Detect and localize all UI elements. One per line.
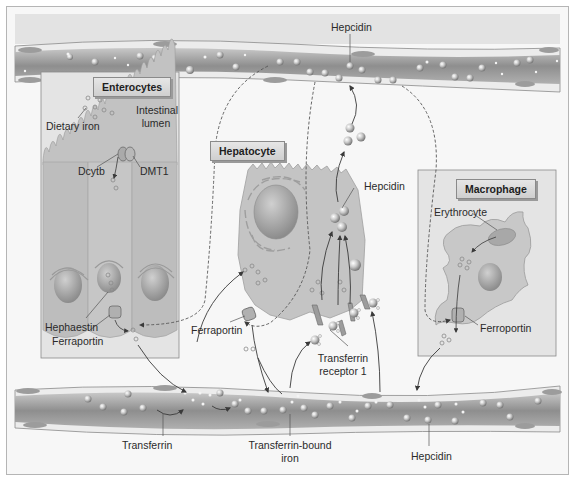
macrophage-tag: Macrophage (456, 179, 536, 199)
label-hepcidin-top: Hepcidin (331, 21, 372, 33)
label-dietary-iron: Dietary iron (46, 120, 100, 132)
label-dcytb: Dcytb (78, 165, 105, 177)
label-transferrin-receptor-line2: receptor 1 (313, 365, 373, 377)
label-intestinal-lumen-line2: lumen (136, 117, 176, 129)
top-tissue-band (15, 14, 560, 44)
label-ferroportin-macrophage: Ferroportin (480, 322, 531, 334)
bottom-blood-vessel (15, 385, 562, 435)
enterocytes-tag: Enterocytes (93, 77, 171, 97)
label-hephaestin: Hephaestin (45, 321, 98, 333)
label-erythrocyte: Erythrocyte (434, 206, 487, 218)
hepatocyte-tag: Hepatocyte (210, 141, 285, 161)
label-ferraportin-enterocyte: Ferraportin (52, 335, 103, 347)
label-transferrin-bound-iron-line2: iron (240, 452, 340, 464)
label-dmt1: DMT1 (140, 165, 169, 177)
label-transferrin-bound-iron-line1: Transferrin-bound (240, 439, 340, 451)
label-ferraportin-hepatocyte: Ferraportin (191, 324, 242, 336)
label-hepcidin-hepatocyte: Hepcidin (364, 180, 405, 192)
label-intestinal-lumen-line1: Intestinal (136, 104, 176, 116)
diagram-canvas (0, 0, 575, 481)
label-transferrin-receptor-line1: Transferrin (313, 352, 373, 364)
label-hepcidin-bottom: Hepcidin (411, 450, 452, 462)
label-transferrin: Transferrin (122, 439, 172, 451)
